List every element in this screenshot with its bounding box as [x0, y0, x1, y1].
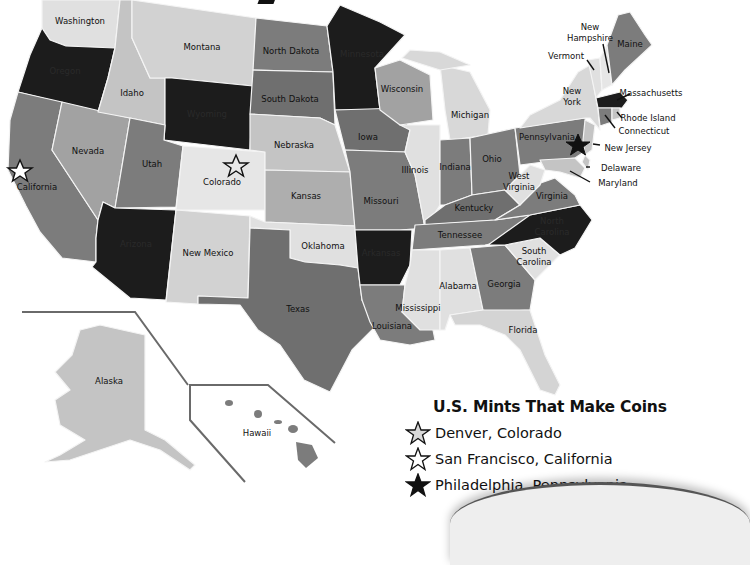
- label-mississippi: Mississippi: [395, 303, 440, 313]
- label-connecticut: Connecticut: [619, 126, 671, 136]
- state-north-dakota[interactable]: [253, 18, 333, 72]
- decorative-coin-arc: [450, 482, 750, 565]
- state-new-jersey[interactable]: [583, 120, 595, 155]
- state-michigan[interactable]: [440, 65, 490, 140]
- label-delaware: Delaware: [601, 163, 641, 173]
- label-wisconsin: Wisconsin: [381, 84, 423, 94]
- label-missouri: Missouri: [364, 196, 399, 206]
- label-idaho: Idaho: [120, 88, 144, 98]
- label-louisiana: Louisiana: [372, 321, 412, 331]
- label-south-dakota: South Dakota: [261, 94, 319, 104]
- label-montana: Montana: [183, 42, 220, 52]
- state-alaska[interactable]: [45, 325, 195, 470]
- label-new-hampshire-2: Hampshire: [567, 33, 613, 43]
- label-nevada: Nevada: [72, 146, 104, 156]
- state-hawaii[interactable]: [225, 400, 318, 468]
- label-maryland: Maryland: [598, 178, 637, 188]
- black-star-icon: [405, 473, 431, 497]
- label-alaska: Alaska: [95, 376, 123, 386]
- legend-item-denver: Denver, Colorado: [405, 420, 667, 446]
- label-west-virginia-1: West: [509, 171, 531, 181]
- label-wyoming: Wyoming: [187, 109, 227, 119]
- label-illinois: Illinois: [402, 165, 430, 175]
- label-texas: Texas: [285, 304, 310, 314]
- callout-new-jersey: [593, 144, 600, 145]
- label-florida: Florida: [509, 325, 538, 335]
- label-minnesota: Minnesota: [340, 49, 384, 59]
- label-rhode-island: Rhode Island: [620, 113, 675, 123]
- label-north-carolina-2: Carolina: [535, 227, 570, 237]
- label-north-dakota: North Dakota: [263, 46, 320, 56]
- state-florida[interactable]: [450, 310, 560, 395]
- label-alabama: Alabama: [439, 281, 476, 291]
- label-new-jersey: New Jersey: [604, 143, 651, 153]
- label-kentucky: Kentucky: [455, 203, 494, 213]
- label-massachusetts: Massachusetts: [620, 88, 683, 98]
- label-south-carolina-1: South: [522, 246, 547, 256]
- label-maine: Maine: [617, 39, 643, 49]
- label-west-virginia-2: Virginia: [503, 182, 535, 192]
- label-north-carolina-1: North: [540, 216, 564, 226]
- state-new-york[interactable]: [520, 65, 600, 130]
- label-new-hampshire-1: New: [581, 22, 600, 32]
- label-iowa: Iowa: [358, 132, 378, 142]
- label-oklahoma: Oklahoma: [301, 241, 344, 251]
- label-new-york-1: New: [563, 86, 582, 96]
- label-arkansas: Arkansas: [362, 248, 401, 258]
- label-new-mexico: New Mexico: [183, 248, 234, 258]
- label-virginia: Virginia: [536, 191, 568, 201]
- label-indiana: Indiana: [439, 162, 470, 172]
- label-california: California: [17, 182, 57, 192]
- legend-title: U.S. Mints That Make Coins: [433, 398, 667, 416]
- label-arizona: Arizona: [120, 239, 152, 249]
- state-arizona[interactable]: [92, 202, 176, 300]
- label-kansas: Kansas: [291, 191, 322, 201]
- label-oregon: Oregon: [49, 66, 80, 76]
- label-colorado: Colorado: [203, 177, 241, 187]
- label-vermont: Vermont: [548, 51, 585, 61]
- label-hawaii: Hawaii: [243, 428, 271, 438]
- label-new-york-2: York: [562, 97, 581, 107]
- legend-label: Denver, Colorado: [435, 425, 562, 441]
- legend-label: San Francisco, California: [435, 451, 613, 467]
- gray-star-icon: [405, 421, 431, 445]
- label-south-carolina-2: Carolina: [517, 257, 552, 267]
- legend-item-san-francisco: San Francisco, California: [405, 446, 667, 472]
- label-utah: Utah: [142, 159, 162, 169]
- label-washington: Washington: [55, 16, 105, 26]
- label-pennsylvania: Pennsylvania: [519, 132, 575, 142]
- label-tennessee: Tennessee: [437, 230, 482, 240]
- white-star-icon: [405, 447, 431, 471]
- state-connecticut[interactable]: [598, 108, 612, 126]
- label-ohio: Ohio: [482, 154, 502, 164]
- label-georgia: Georgia: [487, 279, 520, 289]
- label-michigan: Michigan: [451, 110, 489, 120]
- label-nebraska: Nebraska: [274, 140, 314, 150]
